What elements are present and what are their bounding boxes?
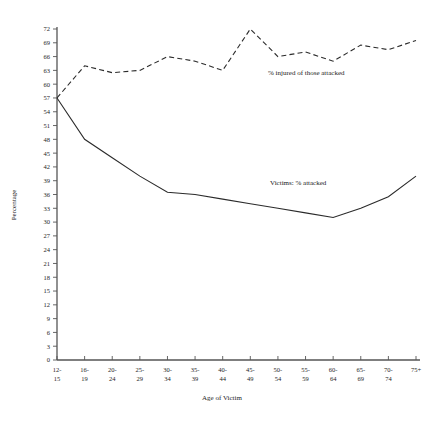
y-tick-label: 21 xyxy=(44,260,51,267)
x-tick-label: 70- xyxy=(384,366,393,373)
x-tick-label-second: 49 xyxy=(247,375,254,382)
y-tick-label: 24 xyxy=(44,246,51,253)
y-tick-label: 6 xyxy=(47,329,51,336)
x-tick-label: 60- xyxy=(329,366,338,373)
x-tick-label: 16- xyxy=(80,366,89,373)
y-tick-label: 18 xyxy=(44,274,51,281)
x-tick-label-second: 34 xyxy=(164,375,171,382)
x-tick-label-second: 59 xyxy=(302,375,309,382)
y-axis-title: Percentage xyxy=(10,190,18,221)
series-label-injured: % injured of those attacked xyxy=(268,69,345,77)
x-tick-label-second: 19 xyxy=(81,375,88,382)
y-tick-label: 33 xyxy=(44,205,51,212)
x-tick-label: 35- xyxy=(191,366,200,373)
y-tick-label: 45 xyxy=(44,150,51,157)
x-tick-label: 20- xyxy=(108,366,117,373)
x-tick-label-second: 44 xyxy=(219,375,226,382)
x-tick-label: 40- xyxy=(218,366,227,373)
y-tick-label: 66 xyxy=(44,53,51,60)
x-tick-label-second: 24 xyxy=(109,375,116,382)
y-tick-label: 30 xyxy=(44,218,51,225)
x-tick-label: 45- xyxy=(246,366,255,373)
x-tick-label-second: 29 xyxy=(137,375,144,382)
x-tick-label-second: 69 xyxy=(358,375,365,382)
y-tick-label: 39 xyxy=(44,177,51,184)
x-tick-label: 50- xyxy=(274,366,283,373)
y-tick-label: 63 xyxy=(44,67,51,74)
y-tick-label: 69 xyxy=(44,39,51,46)
x-tick-label-second: 39 xyxy=(192,375,199,382)
y-tick-label: 15 xyxy=(44,287,51,294)
series-line-attacked xyxy=(57,98,416,218)
series-line-injured xyxy=(57,29,416,98)
x-tick-label-second: 64 xyxy=(330,375,337,382)
x-tick-label-second: 15 xyxy=(54,375,61,382)
x-tick-label: 75+ xyxy=(411,366,422,373)
y-tick-label: 48 xyxy=(44,136,51,143)
y-tick-label: 0 xyxy=(47,356,50,363)
y-tick-label: 72 xyxy=(44,25,51,32)
series-label-attacked: Victims: % attacked xyxy=(270,179,327,187)
y-tick-label: 54 xyxy=(44,108,51,115)
y-tick-label: 27 xyxy=(44,232,51,239)
y-axis-ticks: 0369121518212427303336394245485154576063… xyxy=(44,25,58,363)
y-tick-label: 3 xyxy=(47,343,50,350)
y-tick-label: 51 xyxy=(44,122,51,129)
x-tick-label: 12- xyxy=(53,366,62,373)
y-tick-label: 36 xyxy=(44,191,51,198)
y-tick-label: 12 xyxy=(44,301,51,308)
chart-container: 0369121518212427303336394245485154576063… xyxy=(0,0,439,421)
y-tick-label: 42 xyxy=(44,163,51,170)
y-tick-label: 9 xyxy=(47,315,50,322)
x-tick-label: 65- xyxy=(356,366,365,373)
x-axis-title: Age of Victim xyxy=(202,394,242,402)
x-tick-label: 30- xyxy=(163,366,172,373)
y-tick-label: 60 xyxy=(44,81,51,88)
x-tick-label: 25- xyxy=(136,366,145,373)
y-tick-label: 57 xyxy=(44,94,51,101)
x-tick-label: 55- xyxy=(301,366,310,373)
x-tick-label-second: 54 xyxy=(275,375,282,382)
x-tick-label-second: 74 xyxy=(385,375,392,382)
line-chart: 0369121518212427303336394245485154576063… xyxy=(0,0,439,421)
